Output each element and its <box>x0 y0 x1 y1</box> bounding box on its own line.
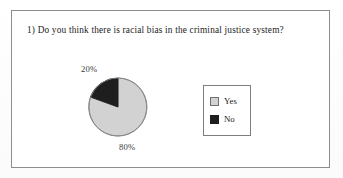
pie-chart-svg <box>88 77 148 137</box>
legend-label-yes: Yes <box>224 97 237 106</box>
legend-swatch-no <box>210 115 219 124</box>
chart-legend: Yes No <box>203 85 251 136</box>
pie-chart-figure: 1) Do you think there is racial bias in … <box>0 0 343 178</box>
page-title: 1) Do you think there is racial bias in … <box>27 24 317 36</box>
legend-item-no[interactable]: No <box>210 110 250 128</box>
legend-swatch-yes <box>210 97 219 106</box>
legend-label-no: No <box>224 115 235 124</box>
pie-chart <box>88 77 148 137</box>
legend-item-yes[interactable]: Yes <box>210 92 250 110</box>
pie-label-yes: 80% <box>119 142 136 152</box>
pie-label-no: 20% <box>81 64 98 74</box>
